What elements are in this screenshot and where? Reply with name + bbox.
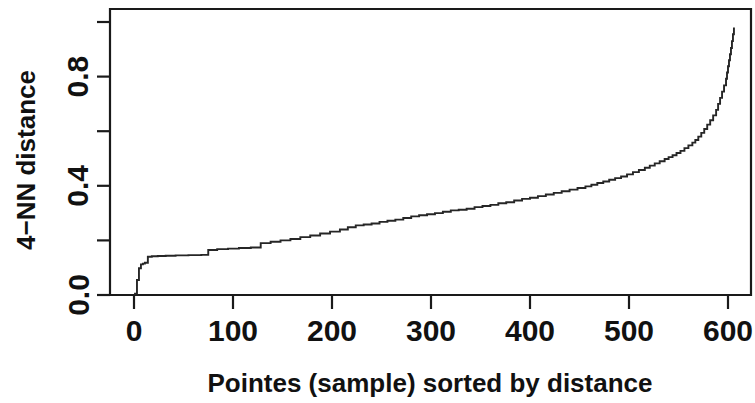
y-tick-label-4: 0.8 bbox=[62, 56, 95, 98]
tick-label-group: 0.00.40.80100200300400500600 bbox=[62, 56, 754, 347]
data-series-line bbox=[135, 27, 734, 295]
y-tick-label-2: 0.4 bbox=[62, 165, 95, 207]
tick-group bbox=[97, 22, 728, 309]
x-tick-label-3: 300 bbox=[406, 314, 456, 347]
y-axis-title: 4−NN distance bbox=[11, 70, 41, 250]
x-tick-label-0: 0 bbox=[126, 314, 143, 347]
x-tick-label-6: 600 bbox=[703, 314, 753, 347]
plot-box-border bbox=[110, 9, 751, 295]
axis-group bbox=[110, 9, 751, 295]
plot-canvas: 0.00.40.80100200300400500600 4−NN distan… bbox=[0, 0, 755, 403]
axis-title-group: 4−NN distancePointes (sample) sorted by … bbox=[11, 70, 653, 398]
x-axis-title: Pointes (sample) sorted by distance bbox=[207, 368, 652, 398]
y-tick-label-0: 0.0 bbox=[62, 274, 95, 316]
x-tick-label-4: 400 bbox=[505, 314, 555, 347]
x-tick-label-5: 500 bbox=[604, 314, 654, 347]
data-series-group bbox=[135, 27, 734, 295]
x-tick-label-1: 100 bbox=[208, 314, 258, 347]
x-tick-label-2: 200 bbox=[307, 314, 357, 347]
knn-distance-plot-figure: 0.00.40.80100200300400500600 4−NN distan… bbox=[0, 0, 755, 403]
